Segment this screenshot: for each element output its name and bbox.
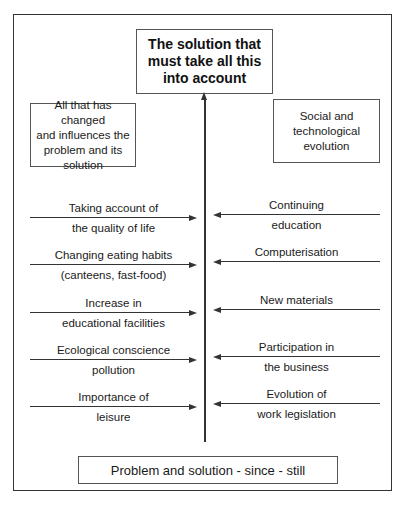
left-arrow-line xyxy=(30,217,190,218)
right-arrow-line xyxy=(220,214,380,215)
left-item-below: the quality of life xyxy=(30,221,197,235)
right-arrow-line xyxy=(220,403,380,404)
right-arrow-line xyxy=(220,356,380,357)
right-arrow-line xyxy=(220,309,380,310)
left-item-above: Changing eating habits xyxy=(30,248,197,262)
right-item-above: Evolution of xyxy=(213,387,380,401)
left-item-below: (canteens, fast-food) xyxy=(30,268,197,282)
solution-line-2: must take all this xyxy=(148,53,262,70)
solution-box: The solution that must take all this int… xyxy=(136,29,273,94)
changes-header-line: All that has changed xyxy=(31,98,135,128)
arrow-right-icon xyxy=(189,357,197,363)
right-item-above: Continuing xyxy=(213,198,380,212)
arrow-right-icon xyxy=(189,215,197,221)
changes-header-box: All that has changed and influences the … xyxy=(30,103,136,167)
left-item-above: Ecological conscience xyxy=(30,343,197,357)
solution-line-3: into account xyxy=(148,70,262,87)
problem-solution-label: Problem and solution - since - still xyxy=(111,463,305,478)
arrow-left-icon xyxy=(213,401,221,407)
arrow-left-icon xyxy=(213,307,221,313)
right-item-above: Participation in xyxy=(213,340,380,354)
left-item-below: educational facilities xyxy=(30,316,197,330)
evolution-header-line: evolution xyxy=(293,139,360,154)
solution-line-1: The solution that xyxy=(148,36,262,53)
left-arrow-line xyxy=(30,312,190,313)
left-arrow-line xyxy=(30,406,190,407)
left-arrow-line xyxy=(30,264,190,265)
changes-header-line: solution xyxy=(31,158,135,173)
right-item-below: work legislation xyxy=(213,407,380,421)
left-arrow-line xyxy=(30,359,190,360)
right-item-above: New materials xyxy=(213,293,380,307)
left-item-above: Increase in xyxy=(30,296,197,310)
arrow-right-icon xyxy=(189,404,197,410)
right-item-below: the business xyxy=(213,360,380,374)
central-axis-line xyxy=(204,98,206,442)
arrow-up-icon xyxy=(201,92,207,100)
left-item-below: pollution xyxy=(30,363,197,377)
arrow-right-icon xyxy=(189,262,197,268)
evolution-header-line: Social and xyxy=(293,109,360,124)
evolution-header-line: technological xyxy=(293,124,360,139)
arrow-right-icon xyxy=(189,310,197,316)
left-item-above: Importance of xyxy=(30,390,197,404)
arrow-left-icon xyxy=(213,354,221,360)
evolution-header-box: Social and technological evolution xyxy=(273,99,380,163)
problem-solution-box: Problem and solution - since - still xyxy=(78,456,338,484)
right-item-above: Computerisation xyxy=(213,245,380,259)
right-arrow-line xyxy=(220,261,380,262)
right-item-below: education xyxy=(213,218,380,232)
left-item-above: Taking account of xyxy=(30,201,197,215)
arrow-left-icon xyxy=(213,259,221,265)
left-item-below: leisure xyxy=(30,410,197,424)
arrow-left-icon xyxy=(213,212,221,218)
changes-header-line: and influences the xyxy=(31,128,135,143)
changes-header-line: problem and its xyxy=(31,143,135,158)
